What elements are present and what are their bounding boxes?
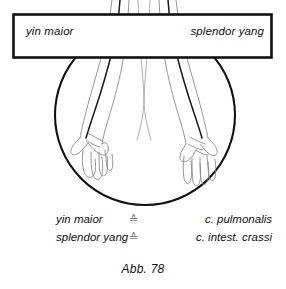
figure-abb-78: yin maior splendor yang yin maior ≙ c. p…: [0, 0, 286, 289]
figure-caption: Abb. 78: [0, 262, 286, 276]
legend-equivalent: c. pulmonalis: [156, 213, 286, 225]
box-label-yin-maior: yin maior: [26, 25, 74, 37]
box-label-splendor-yang: splendor yang: [190, 25, 264, 37]
legend-equivalent: c. intest. crassi: [156, 231, 286, 243]
figure-illustration: yin maior splendor yang: [0, 0, 286, 212]
legend-row: splendor yang ≙ c. intest. crassi: [0, 231, 286, 249]
corresponds-to-icon: ≙: [110, 213, 156, 226]
legend-term: splendor yang: [0, 231, 110, 243]
legend-term: yin maior: [0, 213, 110, 225]
legend: yin maior ≙ c. pulmonalis splendor yang …: [0, 213, 286, 249]
legend-row: yin maior ≙ c. pulmonalis: [0, 213, 286, 231]
corresponds-to-icon: ≙: [110, 231, 156, 244]
